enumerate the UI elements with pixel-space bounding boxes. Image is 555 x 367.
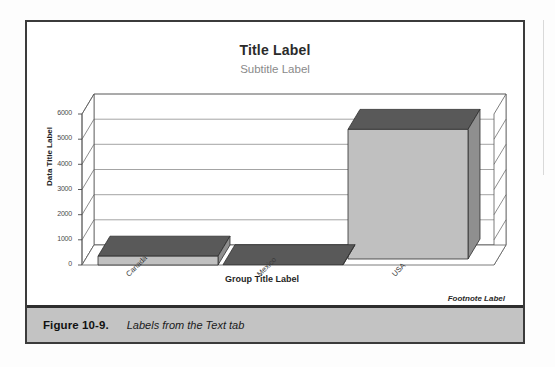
- chart-plot-container: Title Label Subtitle Label: [27, 22, 523, 305]
- y-tick-label-2000: 2000: [32, 210, 72, 217]
- plot-right-wall: [494, 94, 506, 265]
- y-tick-label-1000: 1000: [32, 235, 72, 242]
- figure-caption-number: Figure 10-9.: [43, 319, 109, 331]
- bar-usa: [348, 109, 480, 259]
- y-tick-label-0: 0: [32, 260, 72, 267]
- scanned-page: Title Label Subtitle Label: [0, 0, 555, 367]
- y-axis-title: Data Title Label: [45, 114, 54, 200]
- footnote-label: Footnote Label: [448, 294, 505, 303]
- page-margin-rule: [543, 20, 544, 175]
- plot-left-wall: [82, 94, 94, 265]
- y-axis-ticks: [78, 114, 82, 265]
- bar-canada: [98, 236, 230, 265]
- figure-caption-text: Labels from the Text tab: [127, 319, 245, 331]
- x-axis-title: Group Title Label: [177, 274, 347, 284]
- bar-mexico: [223, 245, 355, 265]
- figure-caption-band: Figure 10-9. Labels from the Text tab: [27, 305, 523, 342]
- figure-frame: Title Label Subtitle Label: [25, 20, 525, 344]
